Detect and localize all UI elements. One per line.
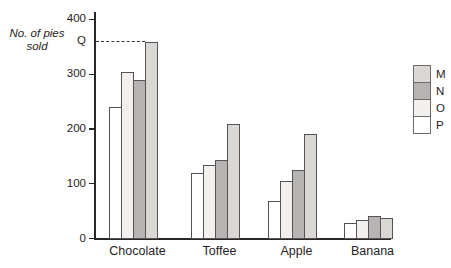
tick-label-400: 400 bbox=[56, 12, 86, 24]
tick-200 bbox=[89, 128, 94, 129]
bar-banana-M bbox=[380, 218, 393, 239]
legend-swatch-O bbox=[413, 99, 431, 117]
legend-swatch-N bbox=[413, 82, 431, 100]
legend-label-O: O bbox=[436, 102, 445, 114]
category-label-chocolate: Chocolate bbox=[93, 244, 183, 258]
tick-label-200: 200 bbox=[56, 122, 86, 134]
bar-chart: No. of pies sold Q 0100200300400Chocolat… bbox=[0, 0, 451, 268]
tick-400 bbox=[89, 19, 94, 20]
tick-label-300: 300 bbox=[56, 67, 86, 79]
tick-label-0: 0 bbox=[56, 232, 86, 244]
q-annotation-label: Q bbox=[56, 34, 86, 46]
legend-swatch-P bbox=[413, 116, 431, 134]
bar-chocolate-M bbox=[145, 42, 158, 239]
category-label-banana: Banana bbox=[328, 244, 418, 258]
tick-label-100: 100 bbox=[56, 177, 86, 189]
tick-100 bbox=[89, 183, 94, 184]
y-axis-line bbox=[94, 12, 96, 240]
legend-label-M: M bbox=[436, 68, 446, 80]
legend-swatch-M bbox=[413, 65, 431, 83]
tick-300 bbox=[89, 74, 94, 75]
bar-apple-M bbox=[304, 134, 317, 239]
bar-toffee-M bbox=[227, 124, 240, 239]
legend-label-N: N bbox=[436, 85, 444, 97]
dashed-leader-line bbox=[96, 41, 145, 42]
tick-0 bbox=[89, 238, 94, 239]
legend-label-P: P bbox=[436, 119, 444, 131]
